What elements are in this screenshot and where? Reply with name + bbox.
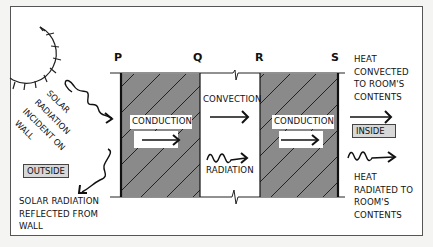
radiation-label: RADIATION xyxy=(206,164,254,177)
outside-label: OUTSIDE xyxy=(23,164,69,178)
inside-label: INSIDE xyxy=(352,124,396,138)
label-line: WALL xyxy=(19,220,99,233)
point-label-r: R xyxy=(255,52,264,65)
label-line: HEAT xyxy=(354,53,409,66)
label-line: ROOM'S xyxy=(354,196,413,209)
heat-convected-arrow-icon xyxy=(350,111,391,123)
sun-icon xyxy=(10,27,61,90)
heat-convected-label: HEAT CONVECTED TO ROOM'S CONTENTS xyxy=(354,53,409,103)
label-line: RADIATED TO xyxy=(354,184,413,197)
solar-reflected-wave-icon xyxy=(79,149,110,193)
convection-arrow-icon xyxy=(210,111,248,123)
point-label-q: Q xyxy=(193,52,202,65)
convection-label: CONVECTION xyxy=(203,93,261,106)
label-line: SOLAR RADIATION xyxy=(19,195,99,208)
solar-incident-wave-icon xyxy=(65,80,112,123)
label-line: TO ROOM'S xyxy=(354,78,409,91)
radiation-wave-arrow-icon xyxy=(207,153,247,163)
point-label-s: S xyxy=(331,52,339,65)
label-line: HEAT xyxy=(354,171,413,184)
heat-radiated-label: HEAT RADIATED TO ROOM'S CONTENTS xyxy=(354,171,413,221)
conduction-right-label: CONDUCTION xyxy=(274,115,334,128)
conduction-left-label: CONDUCTION xyxy=(132,115,192,128)
label-line: CONVECTED xyxy=(354,66,409,79)
point-label-p: P xyxy=(114,52,122,65)
heat-radiated-wave-icon xyxy=(348,152,395,162)
solar-reflected-label: SOLAR RADIATION REFLECTED FROM WALL xyxy=(19,195,99,233)
label-line: REFLECTED FROM xyxy=(19,208,99,221)
label-line: CONTENTS xyxy=(354,209,413,222)
label-line: CONTENTS xyxy=(354,91,409,104)
